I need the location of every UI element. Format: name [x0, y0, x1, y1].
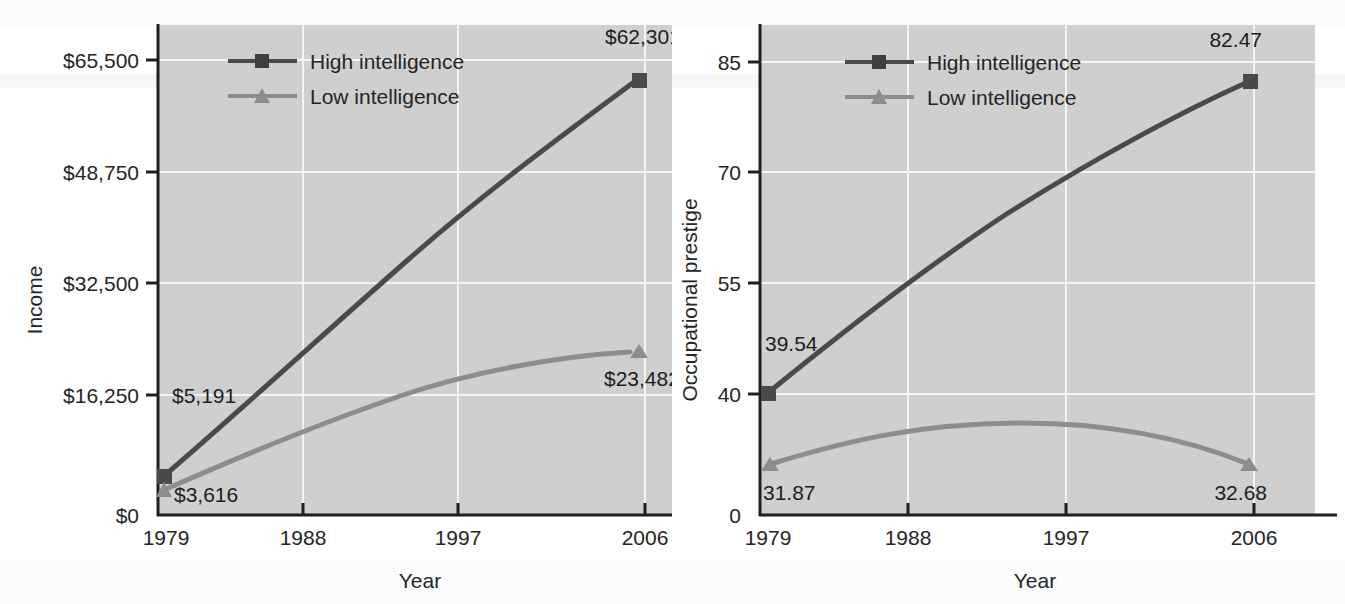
- data-label-low-start: $3,616: [174, 483, 238, 506]
- y-tick-label-70: 70: [718, 161, 741, 184]
- data-label-low-start: 31.87: [763, 481, 816, 504]
- y-tick-label-16250: $16,250: [63, 384, 139, 407]
- y-axis-title: Occupational prestige: [678, 198, 701, 401]
- square-marker-icon: [255, 54, 269, 68]
- y-tick-label-55: 55: [718, 272, 741, 295]
- x-axis-title: Year: [399, 569, 441, 592]
- y-axis-title: Income: [23, 266, 46, 335]
- square-marker-icon: [872, 55, 886, 69]
- prestige-chart-svg: 85 70 55 40 0 Occupational prestige 1979…: [665, 0, 1337, 604]
- x-tick-label-1988: 1988: [280, 526, 327, 549]
- marker-high-1979[interactable]: [761, 386, 776, 401]
- y-tick-label-85: 85: [718, 51, 741, 74]
- x-tick-label-1997: 1997: [435, 526, 482, 549]
- y-tick-label-65500: $65,500: [63, 49, 139, 72]
- legend-label-high-intelligence: High intelligence: [927, 51, 1081, 74]
- chart-panel-prestige: 85 70 55 40 0 Occupational prestige 1979…: [665, 0, 1337, 604]
- y-tick-label-32500: $32,500: [63, 272, 139, 295]
- marker-high-2006[interactable]: [1243, 74, 1258, 89]
- x-tick-label-1979: 1979: [745, 526, 792, 549]
- marker-high-2006[interactable]: [632, 73, 647, 88]
- y-tick-label-40: 40: [718, 383, 741, 406]
- data-label-low-end: $23,482: [604, 367, 672, 390]
- y-axis-ticks: [146, 60, 158, 395]
- income-chart-svg: $65,500 $48,750 $32,500 $16,250 $0 Incom…: [0, 0, 672, 604]
- data-label-high-start: 39.54: [765, 332, 818, 355]
- x-tick-label-2006: 2006: [1231, 526, 1278, 549]
- x-tick-label-2006: 2006: [622, 526, 669, 549]
- figure-panels: $65,500 $48,750 $32,500 $16,250 $0 Incom…: [0, 0, 1345, 604]
- marker-high-1979[interactable]: [157, 469, 172, 484]
- y-tick-label-48750: $48,750: [63, 161, 139, 184]
- legend-label-low-intelligence: Low intelligence: [927, 86, 1076, 109]
- y-axis-ticks: [748, 62, 760, 394]
- x-tick-label-1997: 1997: [1043, 526, 1090, 549]
- data-label-high-end: $62,301: [605, 25, 672, 48]
- x-tick-label-1988: 1988: [885, 526, 932, 549]
- data-label-low-end: 32.68: [1214, 481, 1267, 504]
- data-label-high-start: $5,191: [172, 384, 236, 407]
- y-tick-label-0: $0: [116, 504, 139, 527]
- legend-label-low-intelligence: Low intelligence: [310, 85, 459, 108]
- x-axis-title: Year: [1014, 569, 1056, 592]
- data-label-high-end: 82.47: [1209, 28, 1262, 51]
- chart-panel-income: $65,500 $48,750 $32,500 $16,250 $0 Incom…: [0, 0, 672, 604]
- legend-label-high-intelligence: High intelligence: [310, 50, 464, 73]
- x-tick-label-1979: 1979: [143, 526, 190, 549]
- y-tick-label-0: 0: [729, 504, 741, 527]
